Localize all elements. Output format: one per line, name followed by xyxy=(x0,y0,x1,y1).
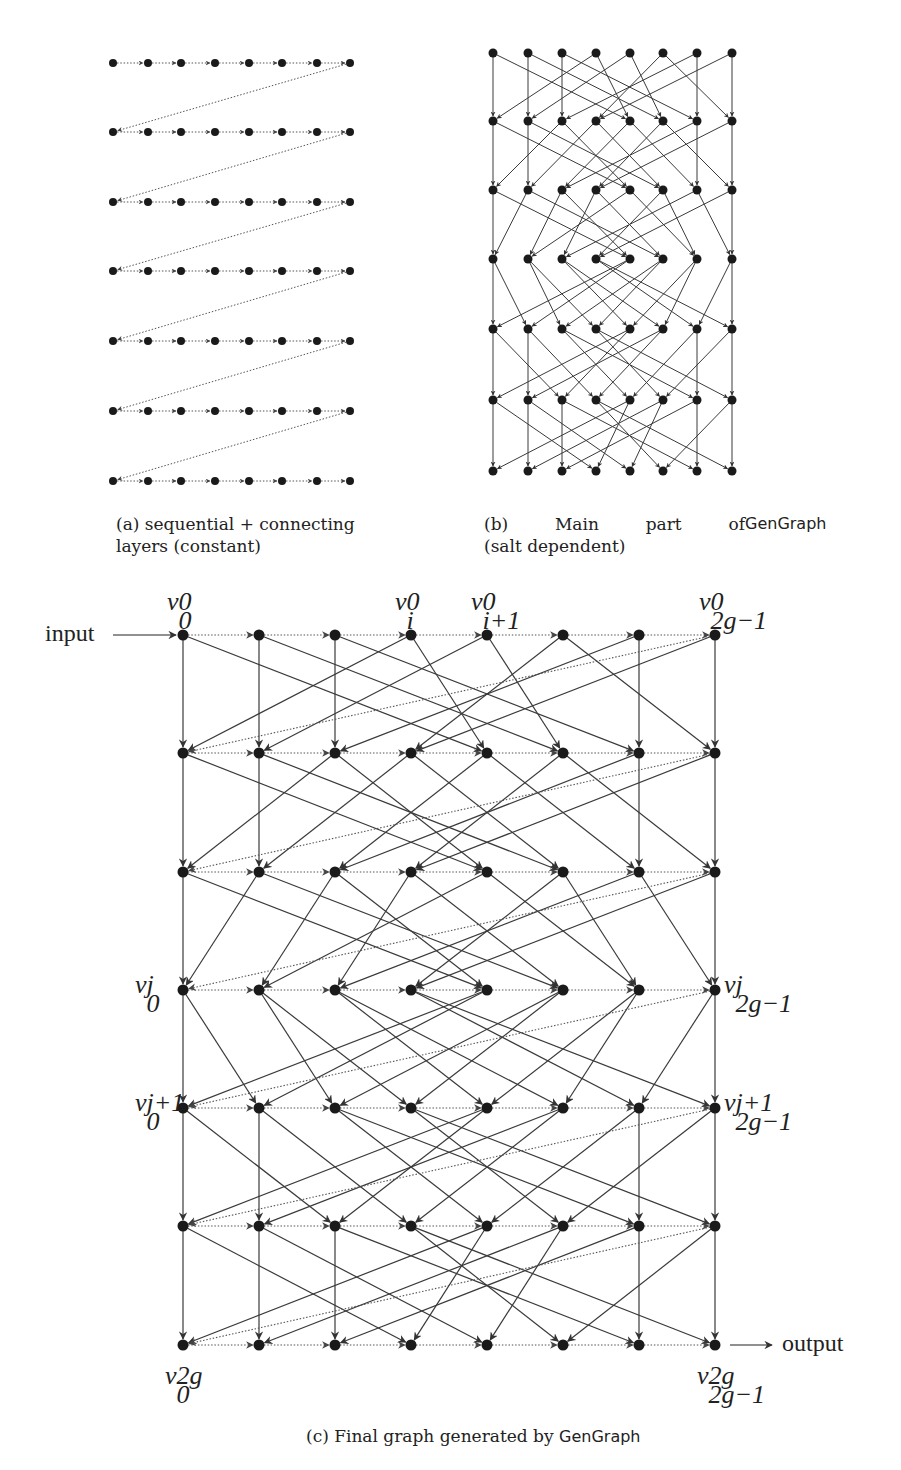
edge xyxy=(496,332,559,397)
vertex xyxy=(482,867,493,878)
edge xyxy=(600,402,728,469)
edge xyxy=(189,1110,483,1224)
edge xyxy=(532,331,659,398)
vertex xyxy=(313,128,321,136)
vertex xyxy=(558,186,567,195)
vertex xyxy=(728,255,737,264)
dotted-edge xyxy=(189,1109,710,1225)
dotted-edge xyxy=(118,64,346,130)
vertex xyxy=(177,407,185,415)
vertex xyxy=(278,477,286,485)
vertex xyxy=(313,267,321,275)
vertex xyxy=(558,630,569,641)
caption-c-gengraph: GenGraph xyxy=(559,1427,640,1446)
edge xyxy=(265,1110,559,1224)
vertex xyxy=(313,198,321,206)
vertex xyxy=(211,407,219,415)
vertex xyxy=(592,467,601,476)
caption-a-line2: layers (constant) xyxy=(116,535,355,557)
vertex xyxy=(592,255,601,264)
edge xyxy=(665,263,695,325)
vertex xyxy=(626,117,635,126)
vertex xyxy=(626,255,635,264)
vertex xyxy=(558,255,567,264)
vertex xyxy=(558,748,569,759)
vertex xyxy=(346,59,354,67)
vertex xyxy=(659,325,668,334)
panel-c-final-graph xyxy=(113,630,772,1351)
panel-b-main-graph xyxy=(489,49,737,476)
vertex xyxy=(693,396,702,405)
edge xyxy=(497,55,626,119)
vertex-label: v2g2g−1 xyxy=(697,1361,710,1391)
edge xyxy=(416,1228,710,1343)
vertex xyxy=(211,128,219,136)
vertex xyxy=(524,467,533,476)
edge xyxy=(642,876,712,985)
vertex xyxy=(144,407,152,415)
vertex xyxy=(330,867,341,878)
vertex xyxy=(406,1340,417,1351)
vertex xyxy=(178,985,189,996)
vertex xyxy=(634,867,645,878)
vertex xyxy=(177,128,185,136)
dotted-edge xyxy=(189,754,710,871)
vertex xyxy=(109,128,117,136)
vertex xyxy=(710,867,721,878)
edge xyxy=(265,1228,559,1343)
vertex xyxy=(489,325,498,334)
edge xyxy=(633,124,694,187)
vertex xyxy=(330,1103,341,1114)
vertex xyxy=(728,467,737,476)
vertex xyxy=(634,630,645,641)
vertex xyxy=(177,267,185,275)
vertex xyxy=(728,117,737,126)
vertex xyxy=(558,117,567,126)
vertex-label: vj0 xyxy=(135,970,148,1000)
panel-a-sequential-layers xyxy=(109,59,354,485)
caption-c-prefix: (c) Final graph generated by xyxy=(306,1426,554,1446)
vertex xyxy=(693,186,702,195)
vertex xyxy=(693,255,702,264)
edge xyxy=(417,637,711,751)
vertex xyxy=(211,198,219,206)
vertex xyxy=(524,117,533,126)
vertex xyxy=(211,267,219,275)
vertex xyxy=(710,985,721,996)
vertex xyxy=(278,267,286,275)
vertex xyxy=(330,985,341,996)
vertex xyxy=(634,1221,645,1232)
caption-a: (a) sequential + connecting layers (cons… xyxy=(116,513,355,557)
dotted-edge xyxy=(118,342,346,409)
vertex xyxy=(254,1340,265,1351)
vertex xyxy=(558,396,567,405)
edge xyxy=(566,994,636,1103)
vertex xyxy=(254,748,265,759)
vertex xyxy=(558,467,567,476)
vertex-label: vj+10 xyxy=(135,1088,148,1118)
vertex xyxy=(524,255,533,264)
edge xyxy=(666,332,729,397)
edge xyxy=(600,55,728,119)
vertex xyxy=(482,1221,493,1232)
edge xyxy=(532,192,659,257)
edge xyxy=(633,332,694,396)
vertex xyxy=(728,396,737,405)
vertex xyxy=(346,128,354,136)
vertex xyxy=(659,467,668,476)
vertex xyxy=(489,117,498,126)
edge xyxy=(598,404,628,467)
vertex xyxy=(558,1221,569,1232)
vertex-label: v2g0 xyxy=(165,1361,178,1391)
vertex xyxy=(710,1103,721,1114)
vertex xyxy=(406,1103,417,1114)
vertex xyxy=(211,477,219,485)
edge xyxy=(599,262,660,325)
edge xyxy=(531,402,626,468)
edge xyxy=(264,756,407,868)
vertex xyxy=(406,985,417,996)
vertex xyxy=(558,325,567,334)
edge xyxy=(665,194,695,255)
vertex-label: vj2g−1 xyxy=(724,970,737,1000)
vertex xyxy=(178,867,189,878)
